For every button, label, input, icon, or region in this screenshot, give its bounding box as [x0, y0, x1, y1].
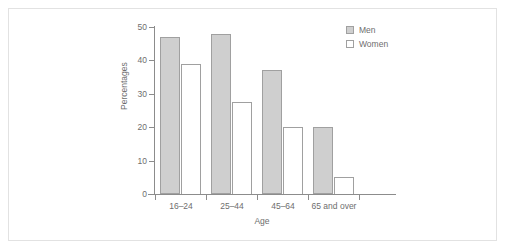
legend-item-men: Men	[346, 23, 388, 37]
x-tick-mark	[257, 195, 258, 200]
y-tick-mark	[149, 127, 155, 128]
x-tick-mark	[308, 195, 309, 200]
y-tick-mark	[149, 161, 155, 162]
x-tick-mark	[155, 195, 156, 200]
x-tick-mark	[206, 195, 207, 200]
x-axis-title: Age	[0, 216, 524, 226]
legend-label-women: Women	[359, 39, 388, 49]
y-tick-label: 20	[117, 122, 147, 132]
x-tick-mark	[359, 195, 360, 200]
bar-men	[313, 127, 333, 194]
y-axis-line	[154, 26, 155, 195]
bar-men	[160, 37, 180, 194]
y-tick-label: 10	[117, 156, 147, 166]
x-tick-label: 65 and over	[312, 201, 357, 211]
legend-label-men: Men	[359, 25, 376, 35]
bar-women	[232, 102, 252, 194]
y-tick-label: 0	[117, 189, 147, 199]
y-tick-label: 40	[117, 55, 147, 65]
chart-legend: Men Women	[346, 23, 388, 51]
legend-swatch-women-icon	[346, 40, 354, 48]
bar-women	[283, 127, 303, 194]
y-tick-label: 30	[117, 89, 147, 99]
bar-women	[181, 64, 201, 194]
chart-figure: Percentages Age 01020304050 16–2425–4445…	[0, 0, 524, 249]
y-tick-mark	[149, 94, 155, 95]
legend-swatch-men-icon	[346, 26, 354, 34]
bar-men	[262, 70, 282, 194]
x-tick-label: 16–24	[169, 201, 193, 211]
bar-men	[211, 34, 231, 194]
x-tick-label: 25–44	[220, 201, 244, 211]
y-tick-mark	[149, 60, 155, 61]
x-tick-label: 45–64	[271, 201, 295, 211]
y-axis-title: Percentages	[119, 62, 129, 110]
legend-item-women: Women	[346, 37, 388, 51]
y-tick-mark	[149, 27, 155, 28]
y-tick-label: 50	[117, 22, 147, 32]
figure-frame	[8, 8, 497, 241]
bar-women	[334, 177, 354, 194]
